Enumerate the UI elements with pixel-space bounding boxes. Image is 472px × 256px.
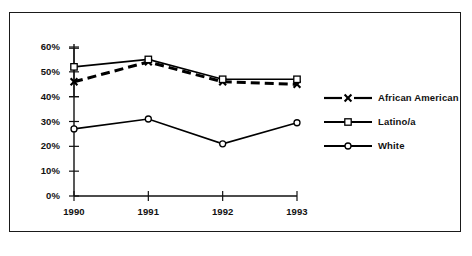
series-latino-a-square-marker <box>219 76 225 82</box>
chart-figure: 0%10%20%30%40%50%60% 1990199119921993 Af… <box>0 0 472 256</box>
series-line-white <box>74 119 297 144</box>
y-axis-tick-label: 20% <box>14 140 60 151</box>
series-line-latino-a <box>74 59 297 79</box>
legend-label-white: White <box>378 140 405 151</box>
legend-latino-a-square-marker <box>345 119 351 125</box>
y-axis-tick-label: 30% <box>14 116 60 127</box>
series-latino-a-square-marker <box>294 76 300 82</box>
legend-african-american-x-marker <box>345 95 352 102</box>
data-series-group <box>71 56 301 147</box>
series-white-circle-marker <box>145 116 151 122</box>
y-axis-tick-label: 10% <box>14 165 60 176</box>
legend-symbols-group <box>324 95 372 149</box>
y-axis-tick-label: 50% <box>14 66 60 77</box>
axis-group <box>69 44 297 201</box>
x-axis-tick-label: 1991 <box>118 206 178 217</box>
x-axis-tick-label: 1992 <box>193 206 253 217</box>
line-chart-plot <box>0 0 472 256</box>
y-axis-tick-label: 0% <box>14 190 60 201</box>
series-white-circle-marker <box>294 120 300 126</box>
series-white-circle-marker <box>220 141 226 147</box>
x-axis-tick-label: 1993 <box>267 206 327 217</box>
legend-label-latino-a: Latino/a <box>378 116 416 127</box>
y-axis-tick-label: 40% <box>14 91 60 102</box>
legend-white-circle-marker <box>345 143 351 149</box>
x-axis-tick-label: 1990 <box>44 206 104 217</box>
y-axis-tick-label: 60% <box>14 41 60 52</box>
error-bar-group <box>69 48 79 96</box>
series-white-circle-marker <box>71 126 77 132</box>
series-latino-a-square-marker <box>71 64 77 70</box>
series-latino-a-square-marker <box>145 56 151 62</box>
legend-label-african-american: African American <box>378 92 459 103</box>
series-line-african-american <box>74 62 297 84</box>
